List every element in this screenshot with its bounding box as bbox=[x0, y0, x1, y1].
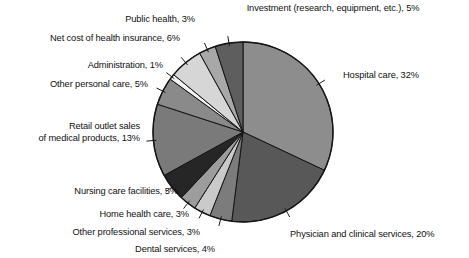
callout-nursing-care-facilities: Nursing care facilities, 5% bbox=[0, 186, 178, 197]
callout-dental-services: Dental services, 4% bbox=[110, 244, 215, 255]
callout-net-cost-of-health-insurance: Net cost of health insurance, 6% bbox=[0, 33, 180, 44]
callout-home-health-care: Home health care, 3% bbox=[0, 209, 189, 220]
callout-hospital-care: Hospital care, 32% bbox=[343, 70, 463, 81]
callout-public-health: Public health, 3% bbox=[0, 14, 195, 25]
pie-chart-figure: Investment (research, equipment, etc.), … bbox=[0, 0, 469, 258]
callout-investment: Investment (research, equipment, etc.), … bbox=[208, 3, 458, 14]
callout-physician-and-clinical-services: Physician and clinical services, 20% bbox=[290, 229, 469, 240]
callout-administration: Administration, 1% bbox=[0, 60, 163, 71]
callout-other-professional-services: Other professional services, 3% bbox=[0, 227, 200, 238]
pie-slices-group bbox=[153, 42, 333, 222]
callout-other-personal-care: Other personal care, 5% bbox=[0, 79, 148, 90]
callout-retail-outlet-sales-line2: of medical products, 13% bbox=[0, 133, 140, 144]
callout-retail-outlet-sales-line1: Retail outlet sales bbox=[0, 121, 140, 132]
